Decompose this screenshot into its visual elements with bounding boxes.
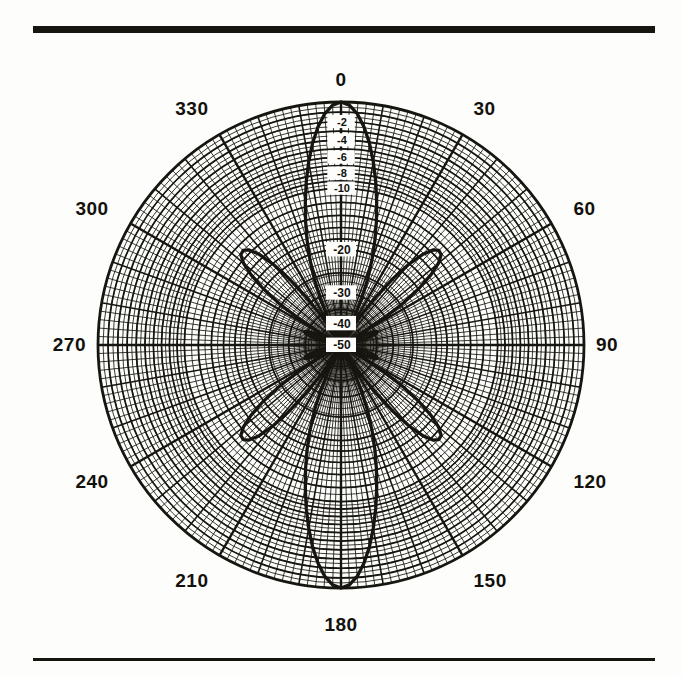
angle-tick-150: 150 [474, 570, 507, 591]
angle-tick-0: 0 [335, 69, 346, 90]
polar-plot-svg: 0306090120150180210240270300330 -2-4-6-8… [0, 0, 682, 677]
radial-tick-neg30: -30 [333, 286, 351, 300]
angle-tick-330: 330 [175, 98, 208, 119]
angle-tick-120: 120 [573, 471, 606, 492]
angle-tick-300: 300 [75, 198, 108, 219]
angle-tick-270: 270 [53, 334, 86, 355]
angle-tick-240: 240 [75, 471, 108, 492]
angle-tick-90: 90 [596, 334, 618, 355]
angle-tick-210: 210 [175, 570, 208, 591]
polar-chart: 0306090120150180210240270300330 -2-4-6-8… [0, 0, 682, 677]
radial-tick-neg2: -2 [337, 116, 347, 128]
radial-tick-neg8: -8 [337, 167, 347, 179]
figure-page: 0306090120150180210240270300330 -2-4-6-8… [0, 0, 682, 677]
radial-tick-neg40: -40 [333, 317, 351, 331]
angle-tick-60: 60 [573, 198, 595, 219]
radial-tick-neg20: -20 [333, 243, 351, 257]
angle-tick-180: 180 [324, 614, 357, 635]
radial-tick-neg10: -10 [334, 182, 350, 194]
angle-tick-30: 30 [474, 98, 496, 119]
radial-tick-neg6: -6 [337, 151, 347, 163]
radial-tick-neg4: -4 [337, 134, 348, 146]
radial-tick-neg50: -50 [333, 338, 351, 352]
